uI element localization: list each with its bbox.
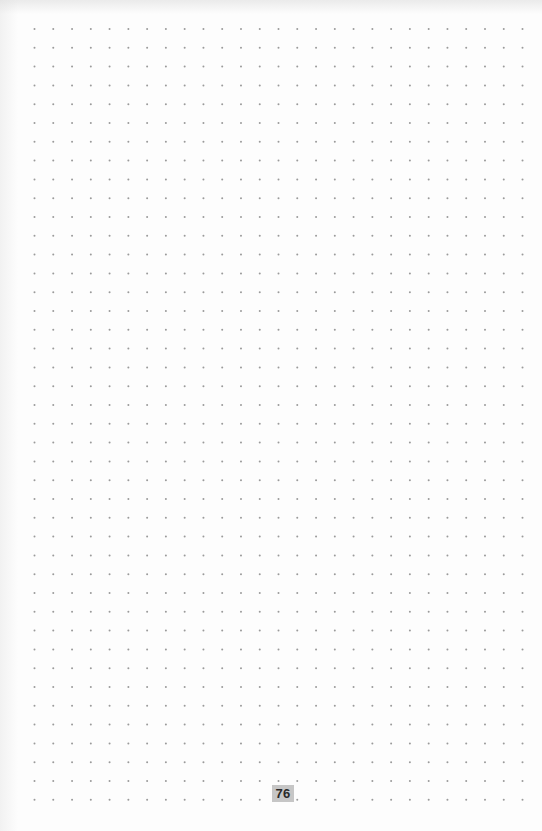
- grid-dot: [184, 686, 186, 688]
- grid-dot: [202, 385, 204, 387]
- grid-dot: [34, 479, 36, 481]
- grid-dot: [315, 573, 317, 575]
- grid-dot: [146, 329, 148, 331]
- grid-dot: [484, 554, 486, 556]
- grid-dot: [259, 216, 261, 218]
- grid-dot: [90, 479, 92, 481]
- grid-dot: [34, 366, 36, 368]
- grid-dot: [390, 573, 392, 575]
- grid-dot: [409, 705, 411, 707]
- grid-dot: [127, 517, 129, 519]
- grid-dot: [353, 329, 355, 331]
- grid-dot: [34, 442, 36, 444]
- grid-dot: [259, 47, 261, 49]
- grid-dot: [109, 103, 111, 105]
- grid-dot: [296, 235, 298, 237]
- grid-dot: [165, 742, 167, 744]
- grid-dot: [334, 216, 336, 218]
- grid-dot: [259, 442, 261, 444]
- grid-dot: [409, 310, 411, 312]
- grid-dot: [165, 517, 167, 519]
- grid-dot: [127, 498, 129, 500]
- grid-dot: [259, 573, 261, 575]
- grid-dot: [446, 592, 448, 594]
- grid-dot: [409, 141, 411, 143]
- grid-dot: [34, 686, 36, 688]
- grid-dot: [202, 460, 204, 462]
- grid-dot: [522, 235, 524, 237]
- grid-dot: [503, 216, 505, 218]
- grid-dot: [296, 686, 298, 688]
- grid-dot: [522, 498, 524, 500]
- grid-dot: [240, 291, 242, 293]
- grid-dot: [90, 705, 92, 707]
- grid-dot: [296, 160, 298, 162]
- grid-dot: [52, 592, 54, 594]
- grid-dot: [127, 160, 129, 162]
- grid-dot: [165, 366, 167, 368]
- grid-dot: [428, 648, 430, 650]
- grid-dot: [353, 573, 355, 575]
- grid-dot: [184, 272, 186, 274]
- grid-dot: [240, 667, 242, 669]
- grid-dot: [390, 103, 392, 105]
- grid-dot: [296, 705, 298, 707]
- grid-dot: [503, 724, 505, 726]
- grid-dot: [353, 141, 355, 143]
- grid-dot: [259, 611, 261, 613]
- grid-dot: [315, 366, 317, 368]
- grid-dot: [127, 780, 129, 782]
- grid-dot: [240, 122, 242, 124]
- grid-dot: [52, 122, 54, 124]
- grid-dot: [202, 667, 204, 669]
- grid-dot: [184, 648, 186, 650]
- grid-dot: [484, 366, 486, 368]
- grid-dot: [503, 28, 505, 30]
- grid-dot: [240, 705, 242, 707]
- grid-dot: [484, 742, 486, 744]
- grid-dot: [503, 536, 505, 538]
- grid-dot: [202, 216, 204, 218]
- grid-dot: [52, 799, 54, 801]
- grid-dot: [109, 197, 111, 199]
- grid-dot: [165, 780, 167, 782]
- grid-dot: [503, 517, 505, 519]
- grid-dot: [465, 442, 467, 444]
- grid-dot: [315, 272, 317, 274]
- grid-dot: [146, 648, 148, 650]
- grid-dot: [371, 216, 373, 218]
- grid-dot: [90, 385, 92, 387]
- grid-dot: [127, 761, 129, 763]
- grid-dot: [202, 761, 204, 763]
- grid-dot: [446, 28, 448, 30]
- grid-dot: [146, 254, 148, 256]
- grid-dot: [334, 799, 336, 801]
- grid-dot: [296, 573, 298, 575]
- grid-dot: [353, 160, 355, 162]
- grid-dot: [484, 197, 486, 199]
- grid-dot: [428, 103, 430, 105]
- grid-dot: [34, 573, 36, 575]
- grid-dot: [127, 272, 129, 274]
- grid-dot: [90, 536, 92, 538]
- grid-dot: [371, 780, 373, 782]
- grid-dot: [90, 329, 92, 331]
- grid-dot: [522, 28, 524, 30]
- grid-dot: [522, 442, 524, 444]
- grid-dot: [503, 442, 505, 444]
- grid-dot: [259, 536, 261, 538]
- grid-dot: [484, 272, 486, 274]
- grid-dot: [127, 385, 129, 387]
- grid-dot: [446, 272, 448, 274]
- grid-dot: [278, 216, 280, 218]
- grid-dot: [34, 460, 36, 462]
- grid-dot: [146, 460, 148, 462]
- grid-dot: [221, 517, 223, 519]
- grid-dot: [465, 630, 467, 632]
- grid-dot: [446, 554, 448, 556]
- grid-dot: [390, 742, 392, 744]
- grid-dot: [465, 799, 467, 801]
- grid-dot: [202, 103, 204, 105]
- grid-dot: [428, 160, 430, 162]
- grid-dot: [278, 160, 280, 162]
